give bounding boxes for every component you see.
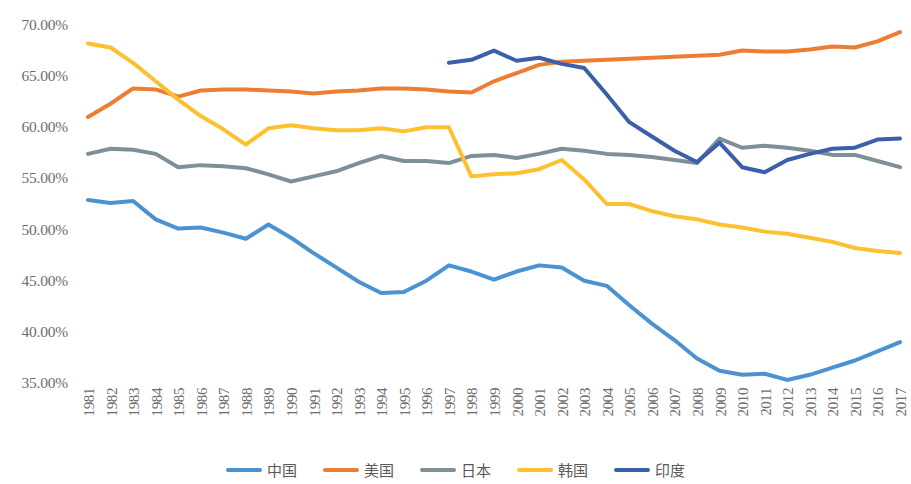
x-tick-label: 1986 <box>194 388 211 416</box>
legend-color-swatch <box>323 468 359 472</box>
legend-color-swatch <box>614 468 650 472</box>
y-axis: 70.00%65.00%60.00%55.00%50.00%45.00%40.0… <box>0 0 74 400</box>
x-tick-label: 1993 <box>352 388 369 416</box>
x-tick-label: 2002 <box>555 388 572 416</box>
x-tick-label: 1996 <box>419 388 436 416</box>
x-tick-label: 2011 <box>758 388 775 416</box>
x-tick-label: 2007 <box>667 388 684 416</box>
x-axis: 1981198219831984198519861987198819891990… <box>74 388 911 454</box>
x-tick-label: 2004 <box>600 388 617 416</box>
x-tick-label: 2009 <box>713 388 730 416</box>
legend-color-swatch <box>226 468 262 472</box>
x-tick-label: 1992 <box>329 388 346 416</box>
x-tick-label: 1997 <box>442 388 459 416</box>
y-tick-label: 35.00% <box>21 374 68 392</box>
x-tick-label: 1987 <box>216 388 233 416</box>
y-tick-label: 50.00% <box>21 221 68 239</box>
x-tick-label: 2017 <box>893 388 910 416</box>
x-tick-label: 2005 <box>622 388 639 416</box>
legend-item[interactable]: 中国 <box>226 459 297 480</box>
legend-label: 中国 <box>267 459 297 480</box>
x-tick-label: 1989 <box>261 388 278 416</box>
x-tick-label: 1984 <box>149 388 166 416</box>
y-tick-label: 45.00% <box>21 272 68 290</box>
x-tick-label: 1981 <box>81 388 98 416</box>
x-tick-label: 1985 <box>171 388 188 416</box>
x-tick-label: 2014 <box>825 388 842 416</box>
x-tick-label: 2010 <box>735 388 752 416</box>
x-tick-label: 1988 <box>239 388 256 416</box>
x-tick-label: 2001 <box>532 388 549 416</box>
x-tick-label: 2013 <box>803 388 820 416</box>
line-chart: 70.00%65.00%60.00%55.00%50.00%45.00%40.0… <box>0 0 911 484</box>
y-tick-label: 70.00% <box>21 16 68 34</box>
x-tick-label: 2008 <box>690 388 707 416</box>
x-tick-label: 1995 <box>397 388 414 416</box>
legend-label: 美国 <box>364 459 394 480</box>
legend-color-swatch <box>517 468 553 472</box>
plot-area <box>74 0 911 392</box>
x-tick-label: 2012 <box>780 388 797 416</box>
x-tick-label: 1994 <box>374 388 391 416</box>
legend-label: 日本 <box>461 459 491 480</box>
legend-item[interactable]: 印度 <box>614 459 685 480</box>
legend-item[interactable]: 日本 <box>420 459 491 480</box>
x-tick-label: 2003 <box>577 388 594 416</box>
legend-item[interactable]: 美国 <box>323 459 394 480</box>
x-tick-label: 1982 <box>104 388 121 416</box>
legend-color-swatch <box>420 468 456 472</box>
legend-label: 韩国 <box>558 459 588 480</box>
x-tick-label: 1983 <box>126 388 143 416</box>
x-tick-label: 1990 <box>284 388 301 416</box>
chart-legend: 中国美国日本韩国印度 <box>0 455 911 484</box>
x-tick-label: 2006 <box>645 388 662 416</box>
y-tick-label: 60.00% <box>21 118 68 136</box>
x-tick-label: 1998 <box>464 388 481 416</box>
legend-item[interactable]: 韩国 <box>517 459 588 480</box>
y-tick-label: 40.00% <box>21 323 68 341</box>
y-tick-label: 55.00% <box>21 169 68 187</box>
x-tick-label: 1999 <box>487 388 504 416</box>
y-tick-label: 65.00% <box>21 67 68 85</box>
x-tick-label: 2000 <box>510 388 527 416</box>
series-line <box>88 32 900 117</box>
series-line <box>88 200 900 380</box>
x-tick-label: 2015 <box>848 388 865 416</box>
plot-svg <box>74 0 911 392</box>
x-tick-label: 2016 <box>870 388 887 416</box>
legend-label: 印度 <box>655 459 685 480</box>
x-tick-label: 1991 <box>307 388 324 416</box>
